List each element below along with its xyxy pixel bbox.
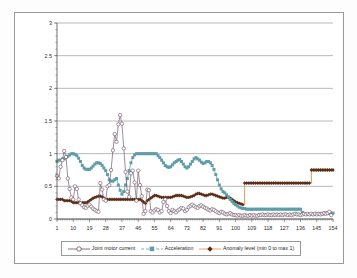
legend-item-anomaly-level[interactable]: Anomaly level (min 0 to max 1): [199, 245, 294, 253]
svg-text:118: 118: [264, 225, 273, 231]
svg-text:154: 154: [329, 225, 338, 231]
svg-text:64: 64: [168, 225, 174, 231]
legend-item-acceleration[interactable]: Acceleration: [141, 245, 194, 253]
svg-text:73: 73: [184, 225, 190, 231]
svg-text:46: 46: [135, 225, 141, 231]
svg-text:55: 55: [151, 225, 157, 231]
svg-text:10: 10: [70, 225, 76, 231]
svg-text:2.5: 2.5: [45, 53, 53, 59]
svg-text:0: 0: [49, 216, 52, 222]
filled-square-marker-icon: [141, 245, 163, 253]
chart-figure: 00.511.522.53 11019283746556473829110010…: [0, 0, 357, 278]
data-series: [55, 113, 334, 217]
x-axis-ticks: [57, 219, 333, 222]
gridlines: [57, 23, 333, 219]
svg-text:1: 1: [56, 225, 59, 231]
open-circle-marker-icon: [68, 245, 90, 253]
svg-text:109: 109: [247, 225, 256, 231]
chart-frame: 00.511.522.53 11019283746556473829110010…: [14, 12, 344, 264]
svg-text:127: 127: [280, 225, 289, 231]
svg-text:1: 1: [49, 151, 52, 157]
svg-text:82: 82: [200, 225, 206, 231]
svg-text:91: 91: [216, 225, 222, 231]
svg-text:2: 2: [49, 85, 52, 91]
svg-text:136: 136: [296, 225, 305, 231]
svg-text:28: 28: [103, 225, 109, 231]
svg-text:0.5: 0.5: [45, 183, 53, 189]
legend-label: Acceleration: [165, 246, 194, 251]
svg-text:3: 3: [49, 20, 52, 26]
y-axis-ticks: [54, 23, 57, 219]
svg-text:145: 145: [312, 225, 321, 231]
x-axis-labels: 1101928374655647382911001091181271361451…: [56, 225, 338, 231]
legend-label: Anomaly level (min 0 to max 1): [223, 246, 294, 251]
svg-text:1.5: 1.5: [45, 118, 53, 124]
svg-text:19: 19: [86, 225, 92, 231]
svg-text:100: 100: [231, 225, 240, 231]
y-axis-labels: 00.511.522.53: [45, 20, 53, 222]
legend-label: Joint motor current: [92, 246, 135, 251]
line-chart: 00.511.522.53 11019283746556473829110010…: [15, 13, 345, 265]
chart-legend: Joint motor current Acceleration Anomaly…: [61, 241, 301, 256]
filled-diamond-marker-icon: [199, 245, 221, 253]
legend-item-joint-motor-current[interactable]: Joint motor current: [68, 245, 135, 253]
plot-area: 00.511.522.53 11019283746556473829110010…: [15, 13, 345, 265]
svg-text:37: 37: [119, 225, 125, 231]
